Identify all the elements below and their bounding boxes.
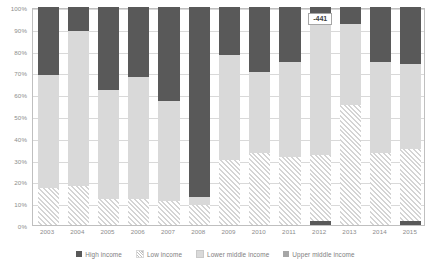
segment-high-income: [68, 7, 89, 31]
bar-2005[interactable]: [98, 7, 119, 225]
data-label-callout: -441: [308, 13, 332, 25]
bar-2006[interactable]: [128, 7, 149, 225]
segment-high-income: [340, 7, 361, 24]
segment-high-income: [38, 7, 59, 75]
legend-item-lower-middle-income[interactable]: Lower middle income: [196, 250, 269, 258]
bar-2012[interactable]: [310, 7, 331, 225]
segment-low-income: [128, 199, 149, 225]
segment-high-income: [279, 7, 300, 62]
x-axis-tick-label: 2007: [161, 228, 175, 235]
x-axis-tick-label: 2005: [100, 228, 114, 235]
segment-high-income: [370, 7, 391, 62]
x-axis-tick-label: 2004: [70, 228, 84, 235]
segment-lower-middle-income: [98, 90, 119, 199]
y-axis-tick-label: 70%: [14, 70, 27, 77]
segment-low-income: [98, 199, 119, 225]
x-axis-tick-label: 2010: [252, 228, 266, 235]
segment-low-income: [310, 155, 331, 220]
bar-2003[interactable]: [38, 7, 59, 225]
bar-2013[interactable]: [340, 7, 361, 225]
legend-label: High income: [85, 251, 122, 258]
segment-low-income: [370, 153, 391, 225]
segment-lower-middle-income: [400, 64, 421, 149]
x-axis-tick-label: 2013: [342, 228, 356, 235]
segment-lower-middle-income: [279, 62, 300, 158]
segment-high-income: [189, 7, 210, 197]
segment-low-income: [340, 105, 361, 225]
legend-label: Upper middle income: [292, 251, 354, 258]
segment-lower-middle-income: [189, 197, 210, 206]
x-axis-tick-label: 2011: [282, 228, 296, 235]
x-axis-tick-label: 2003: [40, 228, 54, 235]
y-axis-tick-label: 40%: [14, 135, 27, 142]
bar-2004[interactable]: [68, 7, 89, 225]
x-axis-tick-label: 2015: [403, 228, 417, 235]
bar-2010[interactable]: [249, 7, 270, 225]
segment-low-income: [68, 186, 89, 225]
upper-middle-income-swatch-icon: [283, 251, 289, 257]
segment-lower-middle-income: [68, 31, 89, 186]
x-axis-tick-label: 2008: [191, 228, 205, 235]
y-axis-tick-label: 90%: [14, 26, 27, 33]
segment-lower-middle-income: [340, 24, 361, 105]
segment-low-income: [400, 149, 421, 221]
segment-lower-middle-income: [158, 101, 179, 201]
segment-low-income: [249, 153, 270, 225]
legend-item-high-income[interactable]: High income: [76, 251, 122, 258]
segment-high-income: [128, 7, 149, 77]
legend-item-upper-middle-income[interactable]: Upper middle income: [283, 251, 354, 258]
high-income-swatch-icon: [76, 251, 82, 257]
segment-low-income: [189, 205, 210, 225]
segment-low-income: [158, 201, 179, 225]
segment-lower-middle-income: [128, 77, 149, 199]
bar-2015[interactable]: [400, 7, 421, 225]
bar-2011[interactable]: [279, 7, 300, 225]
segment-lower-middle-income: [249, 72, 270, 153]
segment-high-income: [219, 7, 240, 55]
y-axis-tick-label: 60%: [14, 92, 27, 99]
segment-low-income: [279, 157, 300, 225]
segment-low-income: [38, 188, 59, 225]
lower-middle-income-swatch-icon: [196, 250, 204, 258]
segment-high-income-base: [400, 221, 421, 225]
x-axis-tick-label: 2006: [131, 228, 145, 235]
y-axis-tick-label: 100%: [11, 5, 27, 12]
y-axis-tick-label: 80%: [14, 48, 27, 55]
segment-high-income: [400, 7, 421, 64]
legend-label: Lower middle income: [207, 251, 269, 258]
x-axis-tick-label: 2014: [373, 228, 387, 235]
bars-layer: -441: [33, 9, 424, 225]
x-axis: 2003200420052006200720082009201020112012…: [32, 228, 425, 242]
x-axis-tick-label: 2009: [221, 228, 235, 235]
low-income-swatch-icon: [136, 250, 144, 258]
y-axis: 0%10%20%30%40%50%60%70%80%90%100%: [0, 8, 30, 226]
bar-2007[interactable]: [158, 7, 179, 225]
segment-high-income: [98, 7, 119, 90]
legend-item-low-income[interactable]: Low income: [136, 250, 182, 258]
segment-lower-middle-income: [310, 22, 331, 155]
y-axis-tick-label: 20%: [14, 179, 27, 186]
stacked-bar-chart: 0%10%20%30%40%50%60%70%80%90%100% -441 2…: [0, 0, 431, 270]
segment-lower-middle-income: [219, 55, 240, 160]
y-axis-tick-label: 50%: [14, 114, 27, 121]
segment-low-income: [219, 160, 240, 225]
x-axis-tick-label: 2012: [312, 228, 326, 235]
segment-high-income: [158, 7, 179, 101]
legend-label: Low income: [147, 251, 182, 258]
bar-2008[interactable]: [189, 7, 210, 225]
y-axis-tick-label: 0%: [18, 223, 27, 230]
segment-high-income-base: [310, 221, 331, 225]
plot-area: -441: [32, 8, 425, 226]
segment-high-income: [249, 7, 270, 72]
y-axis-tick-label: 10%: [14, 201, 27, 208]
bar-2009[interactable]: [219, 7, 240, 225]
y-axis-tick-label: 30%: [14, 157, 27, 164]
bar-2014[interactable]: [370, 7, 391, 225]
chart-legend: High incomeLow incomeLower middle income…: [0, 250, 431, 258]
segment-lower-middle-income: [370, 62, 391, 154]
segment-lower-middle-income: [38, 75, 59, 188]
